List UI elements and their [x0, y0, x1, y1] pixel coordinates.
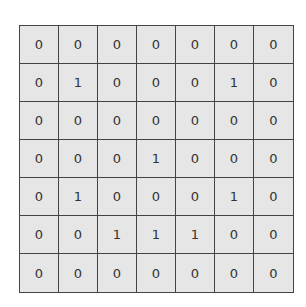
grid-cell: 1: [215, 64, 254, 102]
grid-cell: 1: [59, 178, 98, 216]
grid-cell: 0: [137, 254, 176, 292]
grid-cell: 0: [98, 102, 137, 140]
grid-cell: 0: [59, 26, 98, 64]
grid-cell: 0: [98, 64, 137, 102]
grid-cell: 1: [215, 178, 254, 216]
grid-cell: 0: [59, 254, 98, 292]
grid-cell: 0: [98, 26, 137, 64]
grid-cell: 0: [215, 140, 254, 178]
grid-cell: 0: [20, 140, 59, 178]
grid-cell: 1: [137, 216, 176, 254]
grid-cell: 0: [254, 102, 293, 140]
grid-cell: 0: [20, 64, 59, 102]
grid-cell: 0: [215, 216, 254, 254]
grid-cell: 0: [59, 102, 98, 140]
grid-cell: 1: [59, 64, 98, 102]
grid-cell: 0: [59, 140, 98, 178]
grid-cell: 0: [176, 64, 215, 102]
grid-cell: 0: [98, 178, 137, 216]
grid-cell: 0: [20, 26, 59, 64]
grid-cell: 0: [254, 140, 293, 178]
grid-cell: 1: [98, 216, 137, 254]
grid-cell: 0: [137, 102, 176, 140]
grid-cell: 0: [20, 102, 59, 140]
diagram-canvas: 0 0 0 0 0 0 0 0 1 0 0 0 1 0 0 0 0 0 0 0 …: [0, 0, 306, 307]
grid-cell: 0: [254, 26, 293, 64]
grid-cell: 0: [215, 254, 254, 292]
grid-cell: 0: [20, 216, 59, 254]
grid-cell: 0: [254, 64, 293, 102]
grid-cell: 1: [137, 140, 176, 178]
grid-cell: 0: [137, 64, 176, 102]
grid-cell: 0: [176, 254, 215, 292]
grid-cell: 0: [176, 102, 215, 140]
grid-cell: 0: [98, 140, 137, 178]
grid-cell: 0: [176, 26, 215, 64]
grid-cell: 0: [20, 178, 59, 216]
grid-cell: 0: [254, 254, 293, 292]
grid-cell: 1: [176, 216, 215, 254]
grid-cell: 0: [59, 216, 98, 254]
grid-cell: 0: [98, 254, 137, 292]
grid-cell: 0: [215, 102, 254, 140]
binary-matrix-grid: 0 0 0 0 0 0 0 0 1 0 0 0 1 0 0 0 0 0 0 0 …: [19, 25, 294, 293]
grid-cell: 0: [176, 178, 215, 216]
grid-cell: 0: [176, 140, 215, 178]
grid-cell: 0: [20, 254, 59, 292]
grid-cell: 0: [254, 178, 293, 216]
grid-cell: 0: [254, 216, 293, 254]
grid-cell: 0: [215, 26, 254, 64]
grid-cell: 0: [137, 178, 176, 216]
grid-cell: 0: [137, 26, 176, 64]
